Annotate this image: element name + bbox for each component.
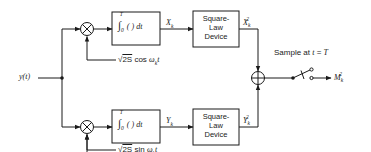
integral-lower: 0 [121,27,124,33]
output-label: Mk2 [334,72,346,84]
integral-upper: T [120,109,123,115]
top-square-law-device: Square-LawDevice [193,14,239,41]
bottom-square-law-device: Square-LawDevice [193,112,239,139]
bottom-integrator-output: Yk [166,117,173,127]
bottom-squarer-output: Yk2 [243,115,253,127]
top-reference-signal: √2S cos ωkt [118,56,159,66]
integral-body: ( ) dt [127,22,143,31]
top-integrator-label: ∫0T( ) dt [118,20,142,34]
integral-body: ( ) dt [127,120,143,129]
bottom-integrator-label: ∫0T( ) dt [118,118,142,132]
diagram-lines [0,0,371,152]
integral-upper: T [120,11,123,17]
bottom-reference-signal: √2S sin ωkt [118,146,157,152]
integral-lower: 0 [121,125,124,131]
sampler-label: Sample at t = T [274,49,328,57]
input-signal-label: y(t) [19,73,30,81]
top-squarer-output: Xk2 [243,17,253,29]
top-integrator-output: Xk [166,19,173,29]
